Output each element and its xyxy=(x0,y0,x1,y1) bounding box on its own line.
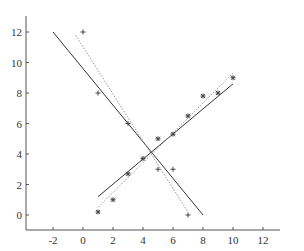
star-marker xyxy=(171,132,176,137)
y-tick-label: 0 xyxy=(17,209,23,221)
x-tick-label: 4 xyxy=(140,234,146,246)
x-tick-label: 12 xyxy=(258,234,269,246)
star-marker xyxy=(111,197,116,202)
y-tick-label: 4 xyxy=(17,148,23,160)
star-marker xyxy=(201,94,206,99)
x-tick-label: 10 xyxy=(228,234,240,246)
star-marker xyxy=(231,75,236,80)
plus-marker xyxy=(186,213,191,218)
plus-marker xyxy=(81,30,86,35)
star-marker xyxy=(141,156,146,161)
data-points xyxy=(81,30,236,218)
y-tick-label: 2 xyxy=(17,179,23,191)
star-marker xyxy=(186,113,191,118)
plus-marker xyxy=(171,167,176,172)
y-tick-label: 6 xyxy=(17,118,23,130)
y-tick-label: 8 xyxy=(17,87,23,99)
fit-line xyxy=(76,35,189,212)
y-tick-label: 10 xyxy=(11,57,23,69)
axes: -2024681012 024681012 xyxy=(11,16,280,246)
x-tick-label: -2 xyxy=(48,234,57,246)
fit-lines xyxy=(53,32,233,215)
star-marker xyxy=(216,91,221,96)
star-marker xyxy=(126,171,131,176)
x-tick-label: 2 xyxy=(110,234,116,246)
y-tick-label: 12 xyxy=(11,26,22,38)
plus-marker xyxy=(96,91,101,96)
x-tick-label: 6 xyxy=(170,234,176,246)
fit-line xyxy=(98,84,233,197)
star-marker xyxy=(96,209,101,214)
x-tick-label: 8 xyxy=(200,234,206,246)
x-tick-label: 0 xyxy=(80,234,86,246)
star-marker xyxy=(156,136,161,141)
scatter-chart: -2024681012 024681012 xyxy=(0,0,304,251)
